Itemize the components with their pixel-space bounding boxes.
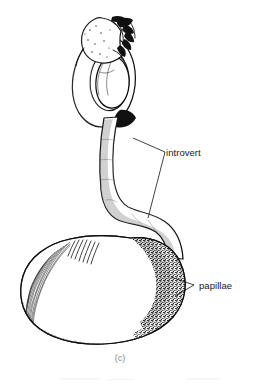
introvert-label: introvert: [166, 147, 201, 158]
figure-container: introvert papillae (c): [0, 0, 253, 384]
figure-caption: (c): [115, 353, 126, 363]
sipunculan-illustration: introvert papillae (c): [0, 0, 253, 384]
papillae-label: papillae: [199, 280, 232, 291]
